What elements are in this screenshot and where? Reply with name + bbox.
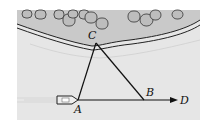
label-C: C <box>88 29 97 42</box>
label-A: A <box>73 103 82 116</box>
label-B: B <box>145 86 154 99</box>
label-D: D <box>179 94 189 107</box>
diagram-canvas: C A B D <box>0 0 210 127</box>
